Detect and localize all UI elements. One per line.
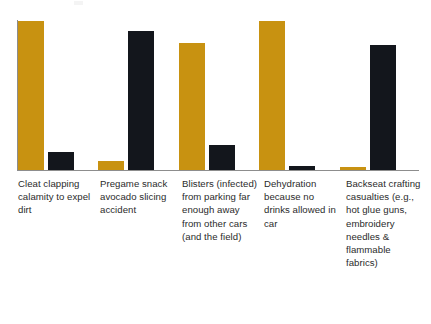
bar-series-b-1[interactable] <box>48 152 74 170</box>
bar-series-a-1[interactable] <box>18 21 44 170</box>
bar-series-a-2[interactable] <box>98 161 124 170</box>
bar-chart: Cleat clapping calamity to expel dirt Pr… <box>0 0 431 324</box>
category-label-2: Pregame snack avocado slicing accident <box>100 177 182 217</box>
bar-series-a-5[interactable] <box>340 167 366 170</box>
category-label-3: Blisters (infected) from parking far eno… <box>182 177 264 243</box>
bar-series-b-2[interactable] <box>128 31 154 170</box>
category-labels: Cleat clapping calamity to expel dirt Pr… <box>18 177 428 269</box>
category-label-1: Cleat clapping calamity to expel dirt <box>18 177 100 217</box>
bar-group-5 <box>340 0 420 170</box>
bar-group-1 <box>18 0 98 170</box>
bar-series-b-3[interactable] <box>209 145 235 170</box>
category-label-5: Backseat crafting casualties (e.g., hot … <box>346 177 428 269</box>
bar-group-3 <box>179 0 259 170</box>
bar-groups <box>18 0 420 170</box>
bar-group-2 <box>98 0 178 170</box>
plot-area <box>0 0 431 172</box>
bar-series-a-3[interactable] <box>179 43 205 170</box>
bar-series-b-5[interactable] <box>370 45 396 170</box>
x-axis-line <box>17 170 419 171</box>
bar-series-b-4[interactable] <box>289 166 315 170</box>
bar-group-4 <box>259 0 339 170</box>
category-label-4: Dehydration because no drinks allowed in… <box>264 177 346 230</box>
bar-series-a-4[interactable] <box>259 21 285 170</box>
